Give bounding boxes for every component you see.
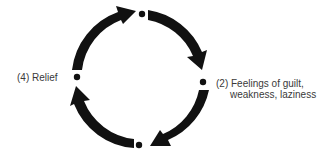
arrow-top-to-right bbox=[148, 10, 207, 70]
node-top bbox=[139, 11, 145, 17]
node-label-feelings-line2: weakness, laziness bbox=[216, 89, 316, 100]
node-bottom bbox=[136, 142, 142, 148]
arrow-right-to-bottom bbox=[150, 90, 209, 146]
node-label-feelings: (2) Feelings of guilt, weakness, lazines… bbox=[216, 78, 316, 100]
cycle-arrows bbox=[70, 6, 209, 148]
node-label-feelings-line1: (2) Feelings of guilt, bbox=[216, 78, 316, 89]
node-label-relief: (4) Relief bbox=[17, 72, 58, 83]
node-right bbox=[200, 79, 206, 85]
arrow-bottom-to-left bbox=[70, 86, 134, 148]
node-left bbox=[74, 74, 80, 80]
arrow-left-to-top bbox=[72, 6, 136, 70]
